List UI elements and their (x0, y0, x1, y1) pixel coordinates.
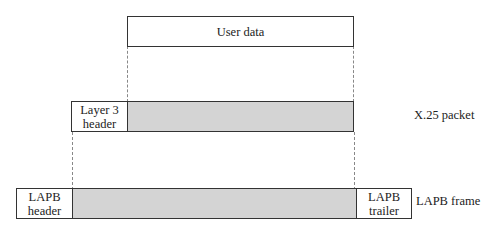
guide-line-packet-right (354, 132, 355, 190)
guide-line-packet-left (72, 132, 73, 190)
lapb-trailer-line1: LAPB (368, 190, 400, 204)
lapb-trailer-cell: LAPB trailer (356, 189, 411, 218)
layer3-header-line2: header (83, 117, 116, 131)
packet-payload-cell (128, 102, 353, 131)
user-data-box: User data (127, 16, 354, 47)
layer3-header-cell: Layer 3 header (72, 102, 128, 131)
x25-packet-box: Layer 3 header (71, 101, 354, 132)
lapb-header-line1: LAPB (29, 190, 61, 204)
frame-payload-cell (73, 189, 356, 218)
x25-packet-label: X.25 packet (414, 108, 474, 123)
lapb-header-line2: header (28, 204, 61, 218)
lapb-header-cell: LAPB header (17, 189, 73, 218)
user-data-label: User data (128, 17, 353, 46)
layer3-header-line1: Layer 3 (80, 103, 119, 117)
lapb-trailer-line2: trailer (369, 204, 399, 218)
lapb-frame-box: LAPB header LAPB trailer (16, 188, 412, 219)
guide-line-userdata-left (127, 46, 128, 102)
guide-line-userdata-right (353, 46, 354, 102)
lapb-frame-label: LAPB frame (416, 194, 480, 209)
